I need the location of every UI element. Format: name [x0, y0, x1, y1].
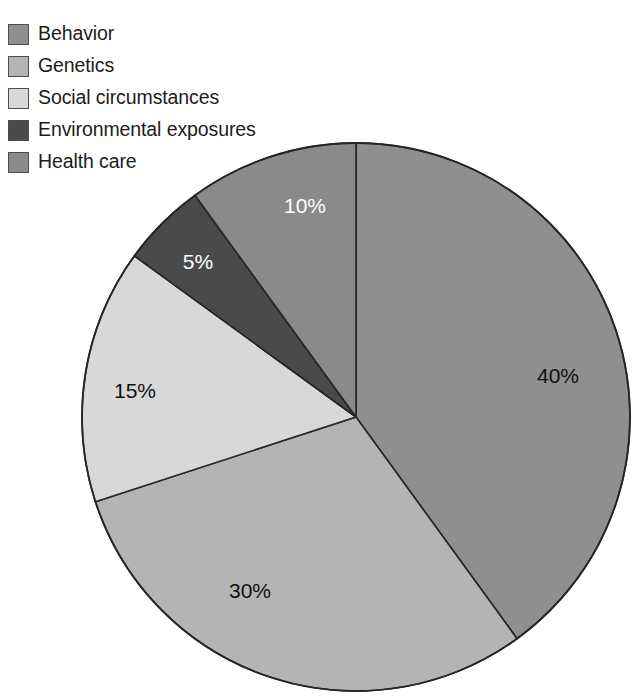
legend-label-health-care: Health care: [38, 152, 137, 172]
legend-label-social-circumstances: Social circumstances: [38, 88, 219, 108]
pie-slice-label-social-circumstances: 15%: [114, 379, 156, 402]
legend-item-behavior[interactable]: Behavior: [8, 18, 338, 50]
chart-legend: Behavior Genetics Social circumstances E…: [8, 18, 338, 178]
legend-item-health-care[interactable]: Health care: [8, 146, 338, 178]
legend-label-environmental-exposures: Environmental exposures: [38, 120, 256, 140]
pie-slice-label-genetics: 30%: [229, 579, 271, 602]
legend-item-environmental-exposures[interactable]: Environmental exposures: [8, 114, 338, 146]
pie-slice-label-environmental-exposures: 5%: [183, 250, 213, 273]
legend-item-genetics[interactable]: Genetics: [8, 50, 338, 82]
legend-swatch-genetics: [8, 56, 29, 77]
legend-swatch-behavior: [8, 24, 29, 45]
legend-swatch-environmental-exposures: [8, 120, 29, 141]
legend-label-behavior: Behavior: [38, 24, 114, 44]
pie-slice-label-behavior: 40%: [537, 364, 579, 387]
pie-slice-label-health-care: 10%: [284, 194, 326, 217]
legend-swatch-social-circumstances: [8, 88, 29, 109]
legend-item-social-circumstances[interactable]: Social circumstances: [8, 82, 338, 114]
legend-label-genetics: Genetics: [38, 56, 114, 76]
legend-swatch-health-care: [8, 152, 29, 173]
pie-slice-group: [82, 143, 630, 691]
